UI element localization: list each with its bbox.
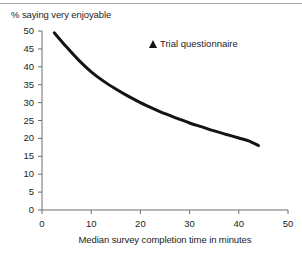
x-tick-label: 50 — [276, 219, 300, 229]
y-tick-label: 20 — [12, 133, 34, 143]
y-tick-label: 30 — [12, 98, 34, 108]
y-tick-label: 40 — [12, 62, 34, 72]
y-tick-label: 15 — [12, 151, 34, 161]
x-tick-label: 0 — [30, 219, 54, 229]
axis-lines — [42, 31, 288, 210]
x-tick-label: 20 — [128, 219, 152, 229]
x-tick-label: 10 — [79, 219, 103, 229]
plot-area — [0, 0, 302, 253]
y-tick-label: 50 — [12, 26, 34, 36]
y-tick-label: 45 — [12, 44, 34, 54]
x-tick-label: 30 — [178, 219, 202, 229]
y-tick-label: 5 — [12, 187, 34, 197]
chart-figure: % saying very enjoyable Trial questionna… — [0, 0, 302, 253]
y-tick-label: 35 — [12, 80, 34, 90]
x-tick-label: 40 — [227, 219, 251, 229]
y-tick-label: 0 — [12, 205, 34, 215]
y-tick-label: 10 — [12, 169, 34, 179]
data-line-trial-questionnaire — [54, 33, 258, 146]
x-tick-marks — [42, 210, 288, 214]
y-tick-label: 25 — [12, 116, 34, 126]
y-tick-marks — [38, 31, 42, 210]
